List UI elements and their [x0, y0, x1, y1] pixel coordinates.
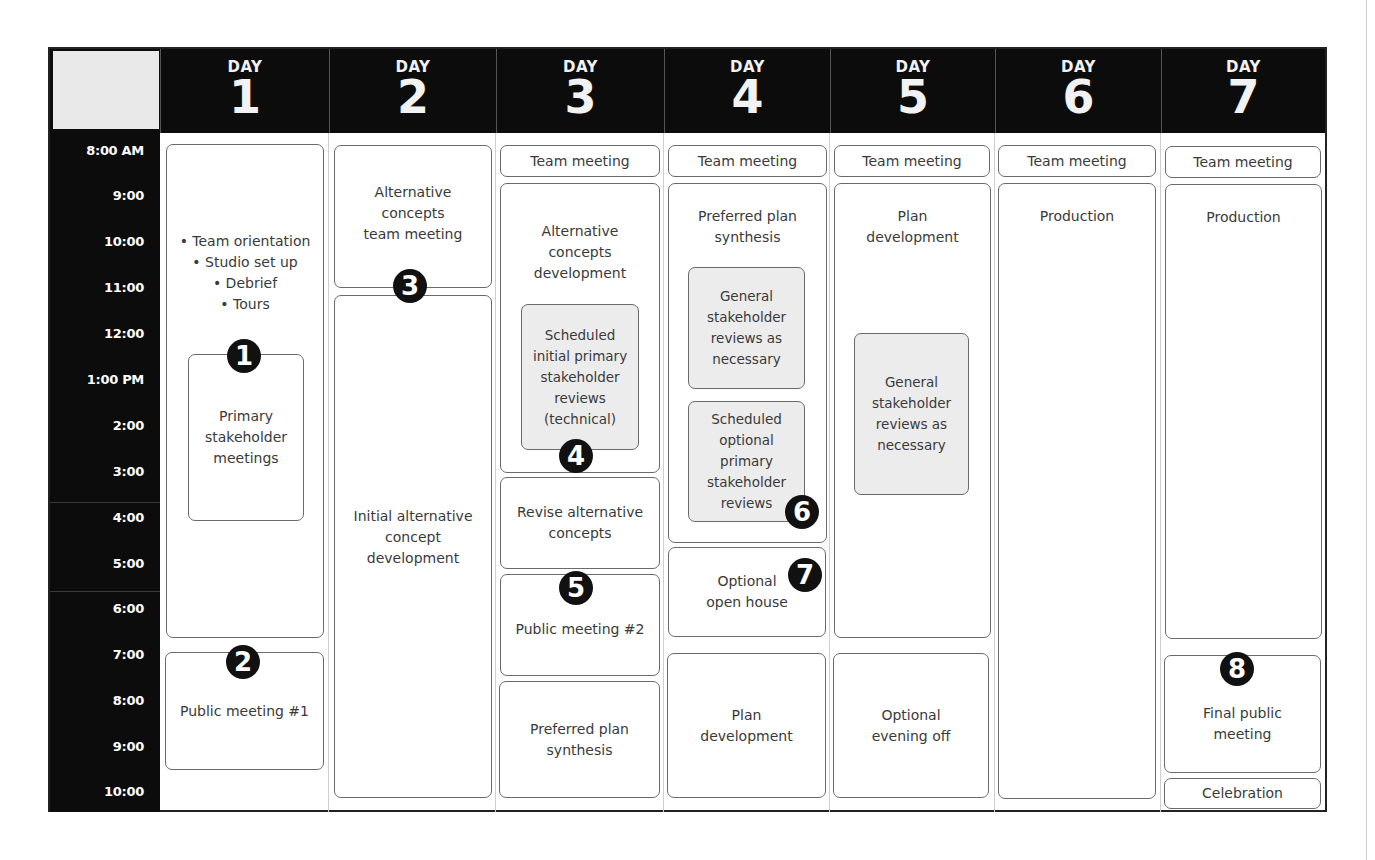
event-production-day6[interactable]: Production: [998, 183, 1156, 799]
column-divider: [829, 133, 830, 812]
event-label: • Team orientation • Studio set up • Deb…: [176, 231, 315, 315]
event-label: Alternative concepts development: [530, 221, 630, 284]
event-team-meeting-day5[interactable]: Team meeting: [834, 145, 990, 177]
event-label: Plan development: [862, 206, 962, 248]
event-production-day7[interactable]: Production: [1165, 184, 1322, 639]
event-label: Alternative concepts team meeting: [360, 182, 467, 245]
time-label: 6:00: [113, 601, 144, 616]
event-celebration[interactable]: Celebration: [1164, 778, 1321, 809]
charrette-schedule-grid: DAY 1 DAY 2 DAY 3 DAY 4 DAY 5 DAY 6 DAY …: [48, 47, 1327, 812]
event-label: Team meeting: [526, 151, 633, 172]
event-label: Initial alternative concept development: [350, 506, 477, 569]
event-preferred-plan-synthesis-day3[interactable]: Preferred plan synthesis: [499, 681, 660, 798]
day-number: 5: [831, 72, 995, 122]
event-label: Celebration: [1198, 783, 1287, 804]
time-label: 1:00 PM: [87, 372, 144, 387]
event-revise-alternative-concepts[interactable]: Revise alternative concepts: [500, 477, 660, 569]
step-badge-1: 1: [227, 339, 261, 373]
event-label: Production: [1202, 207, 1284, 228]
step-badge-3: 3: [393, 269, 427, 303]
time-label: 5:00: [113, 556, 144, 571]
time-label: 11:00: [104, 280, 144, 295]
step-badge-6: 6: [785, 495, 819, 529]
day-header-6: DAY 6: [995, 49, 1161, 133]
column-divider: [495, 133, 496, 812]
column-divider: [328, 133, 329, 812]
event-team-meeting-day6[interactable]: Team meeting: [998, 145, 1156, 177]
event-label: Revise alternative concepts: [513, 502, 647, 544]
event-optional-evening-off[interactable]: Optional evening off: [833, 653, 989, 798]
event-label: Scheduled optional primary stakeholder r…: [703, 409, 790, 514]
event-label: Optional open house: [702, 571, 792, 613]
event-label: General stakeholder reviews as necessary: [703, 286, 790, 370]
event-label: Primary stakeholder meetings: [201, 406, 291, 469]
day-header-4: DAY 4: [664, 49, 830, 133]
event-general-stakeholder-reviews-day5[interactable]: General stakeholder reviews as necessary: [854, 333, 969, 495]
header-corner: [53, 51, 159, 129]
event-label: Team meeting: [694, 151, 801, 172]
event-team-meeting-day3[interactable]: Team meeting: [500, 145, 660, 177]
step-badge-5: 5: [559, 571, 593, 605]
step-badge-8: 8: [1220, 652, 1254, 686]
day-number: 7: [1162, 72, 1325, 122]
time-column: 8:00 AM 9:00 10:00 11:00 12:00 1:00 PM 2…: [50, 133, 160, 812]
event-label: Team meeting: [858, 151, 965, 172]
event-label: Production: [1036, 206, 1118, 227]
event-label: Team meeting: [1189, 152, 1296, 173]
day-number: 1: [161, 72, 329, 122]
event-scheduled-initial-primary-reviews[interactable]: Scheduled initial primary stakeholder re…: [521, 304, 639, 450]
time-label: 10:00: [104, 784, 144, 799]
event-label: Preferred plan synthesis: [694, 206, 801, 248]
page-edge-line: [1366, 0, 1367, 860]
time-label: 2:00: [113, 418, 144, 433]
event-alternative-concepts-team-meeting[interactable]: Alternative concepts team meeting: [334, 145, 492, 288]
event-label: Final public meeting: [1199, 703, 1286, 745]
event-label: Team meeting: [1023, 151, 1130, 172]
time-label: 10:00: [104, 234, 144, 249]
event-label: Optional evening off: [868, 705, 955, 747]
event-plan-development-day4[interactable]: Plan development: [667, 653, 826, 798]
event-label: Public meeting #2: [512, 619, 649, 640]
event-label: General stakeholder reviews as necessary: [868, 372, 955, 456]
column-divider: [994, 133, 995, 812]
event-general-stakeholder-reviews-day4[interactable]: General stakeholder reviews as necessary: [688, 267, 805, 389]
event-team-meeting-day7[interactable]: Team meeting: [1165, 146, 1321, 178]
day-header-3: DAY 3: [496, 49, 664, 133]
day-number: 6: [996, 72, 1161, 122]
event-primary-stakeholder-meetings[interactable]: Primary stakeholder meetings: [188, 354, 304, 521]
time-label: 9:00: [113, 739, 144, 754]
time-label: 8:00 AM: [86, 143, 144, 158]
event-initial-alternative-concept-development[interactable]: Initial alternative concept development: [334, 295, 492, 798]
day-number: 2: [330, 72, 496, 122]
day-header-1: DAY 1: [160, 49, 329, 133]
time-label: 12:00: [104, 326, 144, 341]
time-divider: [50, 591, 160, 592]
event-label: Plan development: [696, 705, 796, 747]
time-label: 7:00: [113, 647, 144, 662]
time-label: 3:00: [113, 464, 144, 479]
event-label: Scheduled initial primary stakeholder re…: [529, 325, 631, 430]
column-divider: [1160, 133, 1161, 812]
time-label: 8:00: [113, 693, 144, 708]
event-team-meeting-day4[interactable]: Team meeting: [668, 145, 827, 177]
step-badge-4: 4: [559, 439, 593, 473]
time-label: 4:00: [113, 510, 144, 525]
step-badge-7: 7: [788, 558, 822, 592]
event-label: Preferred plan synthesis: [526, 719, 633, 761]
day-number: 3: [497, 72, 664, 122]
day-header-2: DAY 2: [329, 49, 496, 133]
day-header-7: DAY 7: [1161, 49, 1325, 133]
day-header-5: DAY 5: [830, 49, 995, 133]
time-divider: [50, 502, 160, 503]
day-number: 4: [665, 72, 830, 122]
column-divider: [663, 133, 664, 812]
event-label: Public meeting #1: [176, 701, 313, 722]
header-row: DAY 1 DAY 2 DAY 3 DAY 4 DAY 5 DAY 6 DAY …: [50, 49, 1325, 133]
step-badge-2: 2: [226, 645, 260, 679]
time-label: 9:00: [113, 188, 144, 203]
